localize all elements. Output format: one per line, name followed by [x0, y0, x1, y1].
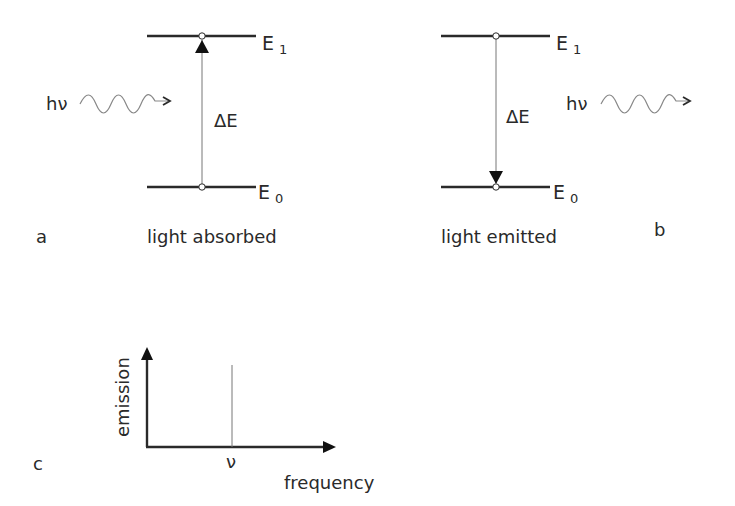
panel-label-c: c [33, 453, 43, 474]
energy-gap-label: ΔE [214, 110, 238, 131]
upper-level-label: E1 [556, 32, 581, 57]
caption-light-emitted: light emitted [441, 226, 557, 247]
arrow-up-icon [195, 40, 209, 53]
caption-light-absorbed: light absorbed [147, 226, 277, 247]
lower-level-label: E0 [553, 181, 578, 206]
panel-label-a: a [36, 226, 47, 247]
lower-node [493, 184, 499, 190]
energy-gap-label: ΔE [506, 106, 530, 127]
y-axis-arrow-icon [141, 347, 153, 360]
upper-level-label: E1 [262, 32, 287, 57]
photon-label: hν [46, 93, 67, 114]
arrow-down-icon [489, 171, 503, 184]
energy-diagram: E1 E0 hν ΔE a light absorbed E1 E0 ΔE hν… [0, 0, 735, 506]
panel-label-b: b [654, 219, 665, 240]
panel-b: E1 E0 ΔE hν light emitted b [441, 32, 690, 247]
panel-c: emission ν frequency c [33, 347, 375, 493]
panel-a: E1 E0 hν ΔE a light absorbed [36, 32, 287, 247]
upper-node [493, 33, 499, 39]
lower-level-label: E0 [258, 181, 283, 206]
y-axis-label: emission [112, 357, 133, 437]
x-axis-label: frequency [284, 472, 375, 493]
upper-node [199, 33, 205, 39]
x-axis-arrow-icon [323, 441, 336, 453]
photon-label: hν [566, 93, 587, 114]
lower-node [199, 184, 205, 190]
spectral-line-label: ν [226, 451, 236, 472]
photon-wave-icon [80, 95, 170, 113]
photon-wave-icon [601, 95, 690, 113]
